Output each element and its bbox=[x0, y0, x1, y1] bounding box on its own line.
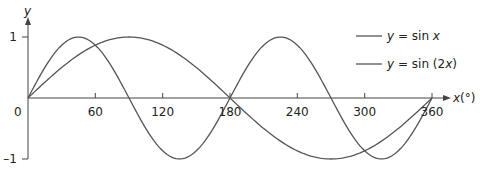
y-axis-label: y bbox=[23, 4, 32, 18]
x-tick-label-180: 180 bbox=[219, 105, 242, 119]
x-tick-label-240: 240 bbox=[286, 105, 309, 119]
x-ticks bbox=[95, 93, 432, 98]
x-tick-label-60: 60 bbox=[88, 105, 103, 119]
x-tick-label-360: 360 bbox=[421, 105, 444, 119]
legend-label-sin-2x: y = sin (2x) bbox=[386, 57, 457, 71]
chart-canvas: y 1 –1 0 60 120 180 240 300 360 x(°) y =… bbox=[0, 0, 480, 174]
x-axis-arrow-icon bbox=[443, 95, 451, 101]
x-tick-label-300: 300 bbox=[353, 105, 376, 119]
y-tick-label-1: 1 bbox=[9, 30, 17, 44]
y-tick-label-neg1: –1 bbox=[3, 152, 17, 166]
x-tick-label-120: 120 bbox=[151, 105, 174, 119]
origin-label: 0 bbox=[14, 105, 22, 119]
y-axis-arrow-icon bbox=[25, 17, 31, 25]
legend-label-sin-x: y = sin x bbox=[386, 29, 441, 43]
x-axis-label: x(°) bbox=[452, 91, 475, 105]
